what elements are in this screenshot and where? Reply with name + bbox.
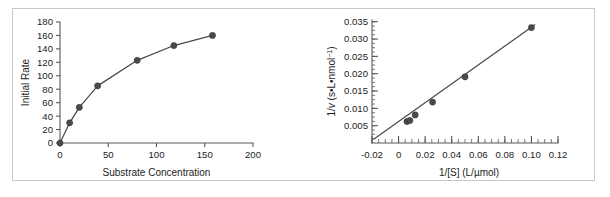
data-point-marker (134, 57, 140, 63)
y-axis-title: 1/v (s•L•nmol−1) (326, 46, 338, 116)
data-point-marker (209, 32, 215, 38)
data-point-marker (171, 42, 177, 48)
x-tick-label: 150 (197, 149, 213, 160)
y-tick-label: 0.020 (344, 68, 368, 79)
y-tick-label: 0.015 (344, 85, 368, 96)
x-tick-label: 0.12 (549, 149, 568, 160)
y-tick-label: 20 (42, 124, 53, 135)
data-point-marker (57, 140, 63, 146)
x-axis-title: 1/[S] (L/µmol) (439, 167, 499, 178)
lineweaver-burk-plot: 0.0050.0100.0150.0200.0250.0300.035-0.02… (305, 0, 610, 197)
data-point-marker (429, 99, 435, 105)
y-tick-label: 40 (42, 111, 53, 122)
y-tick-label: 140 (37, 43, 53, 54)
y-tick-label: 100 (37, 70, 53, 81)
y-tick-label: 120 (37, 57, 53, 68)
data-point-marker (95, 83, 101, 89)
y-tick-label: 180 (37, 16, 53, 27)
x-tick-label: 0 (396, 149, 401, 160)
data-series-line (60, 35, 212, 143)
y-tick-label: 0.010 (344, 103, 368, 114)
x-tick-label: 0.04 (442, 149, 461, 160)
data-point-marker (67, 120, 73, 126)
x-tick-label: 0.08 (496, 149, 515, 160)
x-tick-label: 0.10 (522, 149, 541, 160)
figure-container: 020406080100120140160180050100150200Subs… (0, 0, 610, 197)
fit-line (374, 25, 535, 139)
data-point-marker (462, 74, 468, 80)
y-tick-label: 80 (42, 84, 53, 95)
y-tick-label: 0.005 (344, 120, 368, 131)
y-tick-label: 0.025 (344, 51, 368, 62)
x-tick-label: 50 (103, 149, 114, 160)
y-tick-label: 0.030 (344, 33, 368, 44)
data-point-marker (528, 25, 534, 31)
x-tick-label: 0 (57, 149, 62, 160)
data-point-marker (412, 112, 418, 118)
data-point-marker (76, 104, 82, 110)
chart-panel-lineweaver-burk: 0.0050.0100.0150.0200.0250.0300.035-0.02… (305, 0, 610, 197)
y-tick-label: 160 (37, 30, 53, 41)
x-tick-label: -0.02 (361, 149, 383, 160)
data-point-marker (407, 117, 413, 123)
y-tick-label: 60 (42, 97, 53, 108)
chart-panel-michaelis-menten: 020406080100120140160180050100150200Subs… (0, 0, 305, 197)
x-tick-label: 100 (148, 149, 164, 160)
x-tick-label: 0.06 (469, 149, 488, 160)
x-tick-label: 200 (245, 149, 261, 160)
michaelis-menten-plot: 020406080100120140160180050100150200Subs… (0, 0, 305, 197)
x-axis-title: Substrate Concentration (103, 167, 211, 178)
y-axis-title: Initial Rate (20, 58, 31, 106)
y-tick-label: 0.035 (344, 16, 368, 27)
y-tick-label: 0 (48, 137, 53, 148)
x-tick-label: 0.02 (416, 149, 435, 160)
